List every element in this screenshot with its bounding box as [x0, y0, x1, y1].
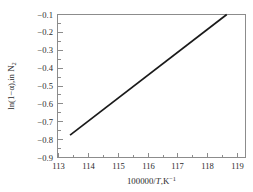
y-axis-title-subscript: 2	[10, 62, 17, 65]
x-tick-label: 117	[171, 161, 184, 171]
y-tick-label: −0.2	[37, 27, 53, 37]
y-tick-label: −0.8	[37, 135, 53, 145]
y-tick-label: −0.4	[37, 63, 53, 73]
x-axis-title: 100000/T,K−1	[127, 175, 176, 186]
x-tick-label: 119	[231, 161, 244, 171]
y-tick-label: −0.9	[37, 153, 53, 163]
y-axis-title: ln(1−α),in N2	[6, 62, 17, 109]
x-tick-label: 118	[201, 161, 214, 171]
x-tick-label: 113	[52, 161, 65, 171]
x-axis-title-prefix: 100000/	[127, 176, 156, 186]
y-tick-labels: −0.9 −0.8 −0.7 −0.6 −0.5 −0.4 −0.3 −0.2 …	[37, 10, 53, 163]
chart-figure: 113 114 115 116 117 118 119 −0.9 −0.8 −0…	[0, 0, 253, 192]
y-axis-title-main: ln(1−α),in N	[6, 65, 16, 110]
x-axis-title-exponent: −1	[169, 175, 176, 182]
y-tick-label: −0.3	[37, 45, 53, 55]
y-tick-label: −0.5	[37, 81, 53, 91]
y-tick-label: −0.1	[37, 10, 53, 20]
x-tick-label: 115	[112, 161, 125, 171]
y-tick-label: −0.6	[37, 99, 53, 109]
chart-canvas: 113 114 115 116 117 118 119 −0.9 −0.8 −0…	[0, 0, 253, 192]
x-tick-label: 116	[142, 161, 155, 171]
x-tick-label: 114	[82, 161, 95, 171]
y-tick-label: −0.7	[37, 117, 53, 127]
